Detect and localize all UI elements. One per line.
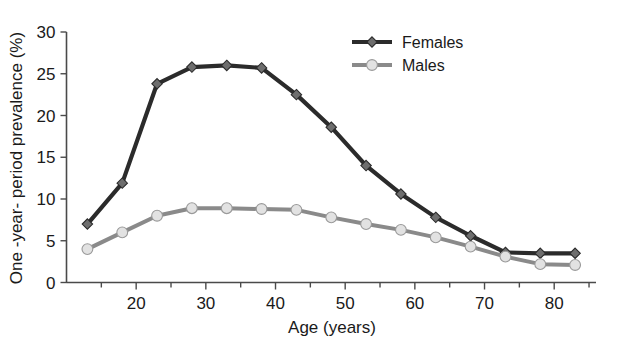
- data-point-marker: [222, 60, 232, 70]
- y-tick-label: 20: [37, 107, 56, 126]
- data-point-marker: [535, 259, 546, 270]
- data-point-marker: [152, 210, 163, 221]
- x-axis-ticks: [136, 283, 554, 290]
- data-point-marker: [465, 241, 476, 252]
- x-tick-label: 70: [475, 294, 494, 313]
- legend-label: Females: [402, 34, 463, 51]
- series-males: [82, 203, 580, 271]
- x-tick-label: 50: [336, 294, 355, 313]
- series-females: [82, 60, 580, 258]
- x-axis-tick-labels: 20304050607080: [127, 294, 564, 313]
- data-point-marker: [430, 232, 441, 243]
- y-tick-label: 25: [37, 65, 56, 84]
- legend-marker-circle-icon: [367, 60, 378, 71]
- y-tick-label: 5: [46, 232, 55, 251]
- x-tick-label: 20: [127, 294, 146, 313]
- data-point-marker: [570, 260, 581, 271]
- x-axis-title: Age (years): [288, 318, 376, 337]
- x-tick-label: 60: [405, 294, 424, 313]
- legend-item-males: Males: [352, 57, 445, 74]
- series-line-females: [87, 65, 575, 253]
- prevalence-by-age-chart: 051015202530 20304050607080 One -year- p…: [0, 0, 622, 347]
- data-point-marker: [117, 227, 128, 238]
- data-point-marker: [500, 251, 511, 262]
- y-axis-ticks: [61, 32, 67, 283]
- data-point-marker: [326, 212, 337, 223]
- y-tick-label: 10: [37, 190, 56, 209]
- data-point-marker: [361, 219, 372, 230]
- y-tick-label: 30: [37, 23, 56, 42]
- chart-canvas: 051015202530 20304050607080 One -year- p…: [0, 0, 622, 347]
- chart-legend: FemalesMales: [352, 34, 463, 74]
- x-tick-label: 80: [545, 294, 564, 313]
- x-tick-label: 40: [266, 294, 285, 313]
- y-tick-label: 0: [46, 274, 55, 293]
- y-axis-tick-labels: 051015202530: [37, 23, 56, 293]
- legend-marker-diamond-icon: [367, 37, 377, 47]
- data-point-marker: [291, 204, 302, 215]
- legend-label: Males: [402, 57, 445, 74]
- series-layer: [82, 60, 580, 270]
- data-point-marker: [82, 244, 93, 255]
- data-point-marker: [187, 203, 198, 214]
- data-point-marker: [396, 224, 407, 235]
- y-tick-label: 15: [37, 148, 56, 167]
- data-point-marker: [256, 204, 267, 215]
- data-point-marker: [535, 248, 545, 258]
- legend-item-females: Females: [352, 34, 463, 51]
- x-tick-label: 30: [196, 294, 215, 313]
- data-point-marker: [221, 203, 232, 214]
- data-point-marker: [570, 248, 580, 258]
- y-axis-title: One -year- period prevalence (%): [7, 32, 26, 284]
